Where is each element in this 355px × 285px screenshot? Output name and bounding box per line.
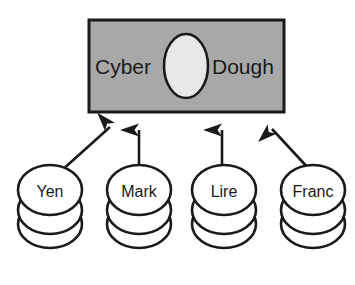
diagram-canvas: Cyber Dough Yen Mark (0, 0, 355, 285)
currency-convergence-diagram: Cyber Dough Yen Mark (0, 0, 355, 285)
arrow-group (61, 127, 310, 172)
coin-stack-mark: Mark (107, 165, 171, 248)
coin-stack-label-yen: Yen (37, 183, 64, 200)
cyber-dough-node: Cyber Dough (89, 20, 284, 112)
coin-stack-label-franc: Franc (293, 183, 334, 200)
coin-stack-label-lire: Lire (211, 183, 238, 200)
dough-label: Dough (212, 55, 274, 78)
coin-stack-lire: Lire (192, 165, 256, 248)
coin-stack-yen: Yen (18, 165, 82, 248)
arrow-yen-to-cyberdough (61, 127, 110, 171)
coin-stack-franc: Franc (281, 165, 345, 248)
arrow-franc-to-cyberdough (272, 129, 310, 170)
coin-stack-label-mark: Mark (121, 183, 158, 200)
cyber-label: Cyber (95, 55, 151, 78)
center-ellipse-icon (164, 34, 208, 98)
